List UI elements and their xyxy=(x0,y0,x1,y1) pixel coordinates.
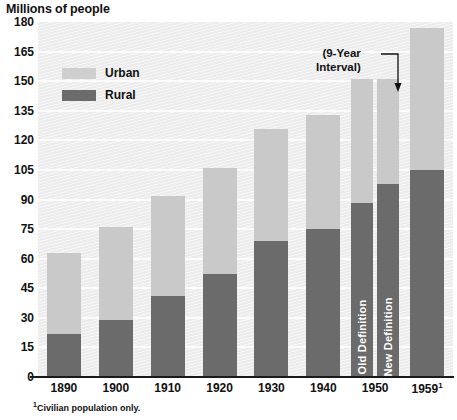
gridline-165 xyxy=(38,51,453,53)
y-tick-label-30: 30 xyxy=(4,311,34,325)
x-tick-label-1920: 1920 xyxy=(206,381,233,395)
legend: Urban Rural xyxy=(62,64,140,108)
annotation-line-2: Interval) xyxy=(316,60,361,74)
rural-segment: New Definition xyxy=(377,184,399,377)
rural-segment xyxy=(254,241,288,377)
y-tick-label-180: 180 xyxy=(4,15,34,29)
y-tick-label-75: 75 xyxy=(4,222,34,236)
y-tick-label-90: 90 xyxy=(4,193,34,207)
population-bar-chart: Millions of people 180165150135120105907… xyxy=(0,0,457,420)
y-tick-label-165: 165 xyxy=(4,45,34,59)
bar-1959 xyxy=(410,28,444,377)
bar-1920 xyxy=(203,168,237,377)
urban-segment xyxy=(151,196,185,297)
bar-1910 xyxy=(151,196,185,377)
urban-segment xyxy=(410,28,444,170)
rural-segment: Old Definition xyxy=(351,203,373,377)
x-tick-footnote-marker: 1 xyxy=(438,381,442,390)
rural-segment xyxy=(410,170,444,377)
annotation-line-1: (9-Year xyxy=(316,46,361,60)
urban-segment xyxy=(377,79,399,184)
y-tick-label-150: 150 xyxy=(4,74,34,88)
bar-1890 xyxy=(47,253,81,377)
bar-1940 xyxy=(306,115,340,377)
x-axis-line xyxy=(30,376,454,378)
legend-label-urban: Urban xyxy=(105,66,140,80)
footnote: 1Civilian population only. xyxy=(33,401,140,413)
footnote-text: Civilian population only. xyxy=(37,403,140,413)
bar-1900 xyxy=(99,227,133,377)
rural-segment xyxy=(306,229,340,377)
y-tick-label-105: 105 xyxy=(4,163,34,177)
x-tick-label-1950: 1950 xyxy=(362,381,389,395)
y-tick-label-15: 15 xyxy=(4,340,34,354)
bar-1930 xyxy=(254,129,288,378)
legend-item-rural: Rural xyxy=(62,86,140,104)
bar-1950-new: New Definition xyxy=(377,79,399,377)
urban-segment xyxy=(99,227,133,320)
chart-title: Millions of people xyxy=(6,2,110,16)
y-tick-label-135: 135 xyxy=(4,104,34,118)
rural-swatch-icon xyxy=(62,90,96,101)
rural-segment xyxy=(47,334,81,377)
legend-item-urban: Urban xyxy=(62,64,140,82)
definition-label-new: New Definition xyxy=(382,297,394,376)
y-tick-label-60: 60 xyxy=(4,252,34,266)
y-tick-label-120: 120 xyxy=(4,133,34,147)
y-tick-label-45: 45 xyxy=(4,281,34,295)
urban-segment xyxy=(254,129,288,241)
legend-label-rural: Rural xyxy=(105,88,136,102)
urban-segment xyxy=(47,253,81,334)
x-tick-label-1930: 1930 xyxy=(258,381,285,395)
x-tick-label-1940: 1940 xyxy=(310,381,337,395)
bar-1950-old: Old Definition xyxy=(351,79,373,377)
rural-segment xyxy=(151,296,185,377)
x-tick-label-1910: 1910 xyxy=(154,381,181,395)
urban-segment xyxy=(351,79,373,203)
urban-segment xyxy=(306,115,340,229)
interval-annotation: (9-Year Interval) xyxy=(316,46,361,74)
x-tick-label-1959: 19591 xyxy=(411,381,442,396)
y-axis: 1801651501351201059075604530150 xyxy=(0,22,34,377)
x-tick-label-1890: 1890 xyxy=(51,381,78,395)
urban-segment xyxy=(203,168,237,275)
rural-segment xyxy=(99,320,133,377)
definition-label-old: Old Definition xyxy=(356,300,368,375)
urban-swatch-icon xyxy=(62,68,96,79)
rural-segment xyxy=(203,274,237,377)
x-tick-label-1900: 1900 xyxy=(102,381,129,395)
